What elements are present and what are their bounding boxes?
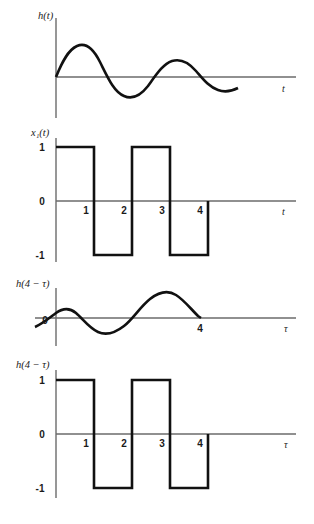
x-tick-label-4: 4 [197, 323, 203, 334]
x-axis-label: t [282, 83, 285, 94]
panel-x1-t: 1 0 -1 1 2 3 4 x₁(t) t [0, 122, 314, 274]
x-tick-label-1: 1 [83, 438, 89, 449]
panel-x1-t-svg: 1 0 -1 1 2 3 4 x₁(t) t [0, 122, 314, 274]
reversed-sinusoid-curve [35, 292, 201, 334]
damped-sinusoid-curve [56, 45, 238, 97]
y-tick-label-0: 0 [39, 196, 45, 207]
y-axis-label: x₁(t) [30, 127, 50, 139]
x-tick-label-1: 1 [83, 205, 89, 216]
panel-h-4-tau-curve-svg: h(4 − τ) 0 4 τ [0, 274, 314, 352]
panel-h-4-tau-square-svg: 1 0 -1 1 2 3 4 h(4 − τ) τ [0, 352, 314, 524]
figure-root: h(t) t 1 0 -1 1 2 3 4 x₁(t) t [0, 0, 314, 524]
y-tick-label-neg1: -1 [36, 483, 45, 494]
x-tick-label-3: 3 [159, 438, 165, 449]
x-tick-label-3: 3 [159, 205, 165, 216]
panel-h-4-tau-curve: h(4 − τ) 0 4 τ [0, 274, 314, 352]
x-axis-label: t [282, 206, 285, 217]
y-tick-label-neg1: -1 [36, 250, 45, 261]
x-tick-label-2: 2 [121, 205, 127, 216]
y-axis-label: h(t) [38, 10, 54, 22]
panel-h-t-svg: h(t) t [0, 0, 314, 122]
x-axis-label: τ [284, 439, 288, 450]
panel-h-4-tau-square: 1 0 -1 1 2 3 4 h(4 − τ) τ [0, 352, 314, 524]
y-axis-label: h(4 − τ) [16, 278, 50, 290]
x-axis-label: τ [284, 323, 288, 334]
x-tick-label-4: 4 [197, 205, 203, 216]
panel-h-t: h(t) t [0, 0, 314, 122]
y-tick-label-1: 1 [39, 142, 45, 153]
y-tick-label-1: 1 [39, 375, 45, 386]
x-tick-label-4: 4 [197, 438, 203, 449]
y-axis-label: h(4 − τ) [16, 359, 50, 371]
x-tick-label-2: 2 [121, 438, 127, 449]
y-tick-label-0: 0 [39, 429, 45, 440]
y-tick-label-0: 0 [42, 315, 48, 326]
